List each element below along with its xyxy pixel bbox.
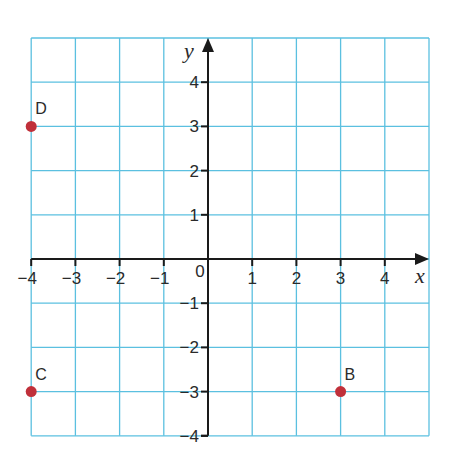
x-tick-label: 4 (380, 269, 389, 288)
y-tick-label: 4 (190, 73, 199, 92)
point-d (26, 121, 37, 132)
x-tick-label: −3 (62, 269, 81, 288)
coordinate-plane: −4−3−2−112344321−1−2−3−40xy DCB (0, 0, 453, 462)
x-tick-label: 3 (336, 269, 345, 288)
y-tick-label: 1 (190, 206, 199, 225)
x-tick-label: −4 (18, 269, 37, 288)
x-tick-label: −2 (106, 269, 125, 288)
grid-lines (31, 38, 429, 436)
x-axis-label: x (414, 263, 425, 288)
y-tick-label: 2 (190, 162, 199, 181)
y-axis-arrow-icon (202, 38, 214, 52)
x-tick-label: −1 (150, 269, 169, 288)
origin-label: 0 (195, 262, 204, 281)
y-axis-label: y (182, 38, 194, 63)
y-tick-label: −3 (180, 383, 199, 402)
y-tick-label: −4 (180, 427, 199, 446)
point-label-c: C (35, 366, 47, 383)
axes (31, 38, 429, 436)
x-tick-label: 2 (292, 269, 301, 288)
tick-labels: −4−3−2−112344321−1−2−3−40xy (18, 38, 425, 446)
point-b (335, 386, 346, 397)
point-label-d: D (35, 100, 47, 117)
y-tick-label: 3 (190, 117, 199, 136)
point-c (26, 386, 37, 397)
y-tick-label: −1 (180, 294, 199, 313)
point-label-b: B (345, 366, 356, 383)
x-tick-label: 1 (247, 269, 256, 288)
y-tick-label: −2 (180, 338, 199, 357)
